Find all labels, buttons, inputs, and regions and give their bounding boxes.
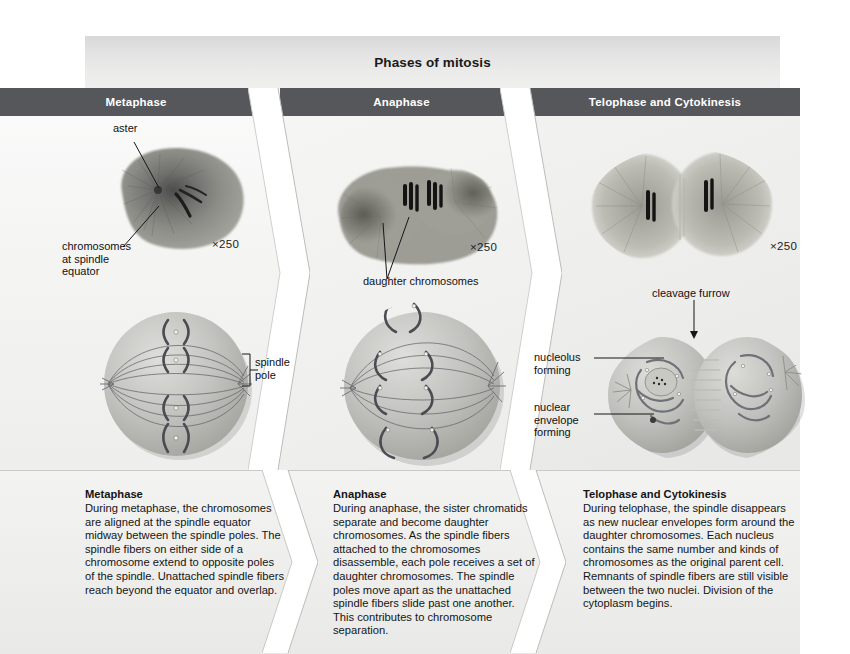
callout-chromosomes-at-spindle-equator: chromosomes at spindle equator: [62, 240, 131, 278]
leader-lines-telophase-diagram: [592, 352, 672, 440]
magnification-label-metaphase: ×250: [212, 238, 239, 250]
callout-daughter-chromosomes: daughter chromosomes: [363, 275, 479, 288]
micrograph-telophase: [590, 148, 775, 268]
caption-title: Metaphase: [85, 488, 285, 502]
callout-nucleolus-forming: nucleolus forming: [534, 351, 580, 376]
phase-header-label: Telophase and Cytokinesis: [589, 96, 741, 108]
magnification-label-anaphase: ×250: [470, 241, 497, 253]
magnification-label-telophase: ×250: [770, 240, 797, 252]
callout-aster: aster: [113, 122, 137, 135]
caption-metaphase: Metaphase During metaphase, the chromoso…: [85, 488, 285, 597]
caption-body: During anaphase, the sister chromatids s…: [333, 502, 534, 636]
caption-body: During metaphase, the chromosomes are al…: [85, 502, 284, 596]
phase-header-label: Metaphase: [105, 96, 166, 108]
callout-cleavage-furrow: cleavage furrow: [652, 287, 730, 300]
leader-lines-anaphase-micrograph: [355, 195, 475, 285]
phase-header-label: Anaphase: [373, 96, 430, 108]
phase-header-telophase: Telophase and Cytokinesis: [530, 88, 800, 116]
caption-title: Anaphase: [333, 488, 538, 502]
figure-title: Phases of mitosis: [374, 55, 491, 70]
callout-spindle-pole: spindle pole: [255, 356, 290, 381]
diagram-anaphase-cell: [338, 300, 518, 472]
phase-header-anaphase: Anaphase: [280, 88, 523, 116]
caption-anaphase: Anaphase During anaphase, the sister chr…: [333, 488, 538, 638]
caption-body: During telophase, the spindle disappears…: [583, 502, 794, 609]
figure-title-banner: Phases of mitosis: [85, 36, 780, 88]
phase-header-metaphase: Metaphase: [0, 88, 272, 116]
caption-telophase: Telophase and Cytokinesis During telopha…: [583, 488, 798, 611]
caption-title: Telophase and Cytokinesis: [583, 488, 798, 502]
diagram-metaphase-cell: [98, 306, 258, 466]
callout-nuclear-envelope-forming: nuclear envelope forming: [534, 401, 579, 439]
